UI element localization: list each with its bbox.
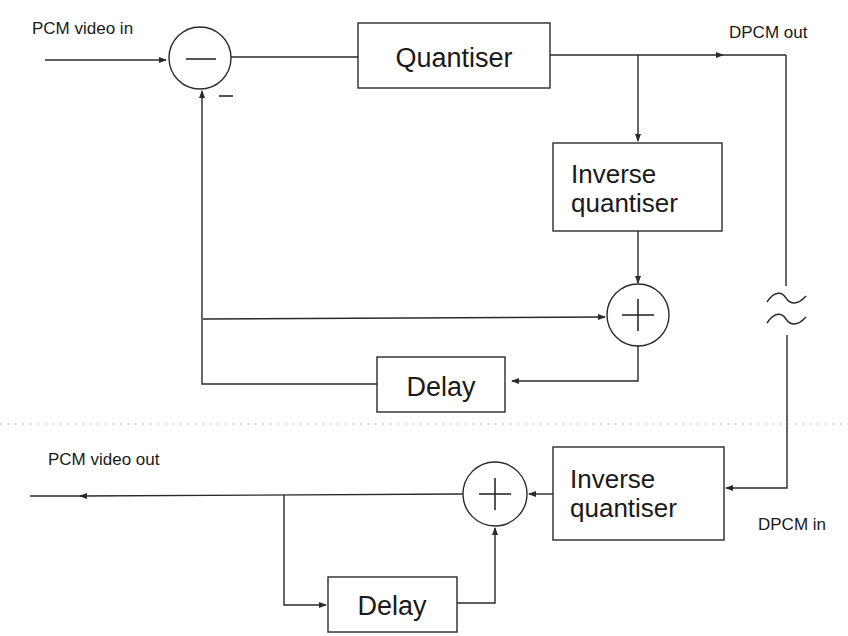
decoder-adder-node (463, 462, 527, 526)
decoder-inverse-quantiser-label-line2: quantiser (570, 493, 677, 523)
adder-to-delay-wire (512, 346, 638, 381)
channel-wire-bottom (726, 335, 787, 488)
decoder-branch-to-delay (284, 495, 326, 605)
decoder-inverse-quantiser-block: Inverse quantiser (553, 447, 724, 540)
encoder-delay-block: Delay (377, 357, 505, 412)
decoder-delay-to-adder-wire (457, 528, 495, 603)
decoder: DPCM in Inverse quantiser PCM video out … (30, 447, 826, 632)
dpcm-diagram: PCM video in Quantiser DPCM out Inverse … (0, 0, 848, 636)
encoder-inverse-quantiser-block: Inverse quantiser (553, 143, 722, 231)
delay-feedback-wire (202, 91, 377, 384)
decoder-delay-label: Delay (357, 591, 427, 621)
prediction-to-adder-wire (203, 317, 605, 319)
pcm-video-out-label: PCM video out (48, 450, 160, 469)
inverse-quantiser-label-line1: Inverse (571, 159, 656, 189)
encoder-adder-node (607, 284, 669, 346)
transmission-channel (0, 55, 848, 488)
decoder-inverse-quantiser-label-line1: Inverse (570, 464, 655, 494)
decoder-delay-block: Delay (328, 577, 457, 632)
subtractor-node (169, 27, 231, 89)
dpcm-in-label: DPCM in (758, 515, 826, 534)
channel-break-icon (767, 293, 806, 324)
pcm-video-in-label: PCM video in (32, 19, 133, 38)
inverse-quantiser-label-line2: quantiser (571, 188, 678, 218)
decoder-output-wire (80, 494, 463, 496)
quantiser-label: Quantiser (395, 43, 512, 73)
dpcm-out-label: DPCM out (729, 23, 808, 42)
quantiser-block: Quantiser (358, 23, 550, 88)
delay-label: Delay (406, 372, 476, 402)
encoder: PCM video in Quantiser DPCM out Inverse … (32, 19, 808, 412)
